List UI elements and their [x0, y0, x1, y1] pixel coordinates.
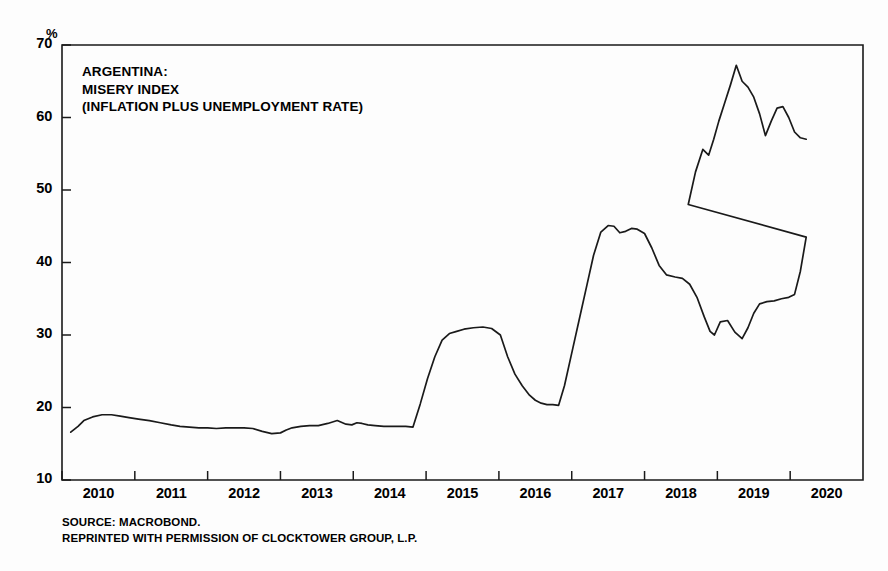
- y-tick-label: 30: [18, 325, 52, 341]
- data-series-group: [71, 65, 806, 433]
- x-tick-label: 2017: [572, 485, 644, 501]
- source-line: SOURCE: MACROBOND.: [62, 515, 417, 531]
- x-tick-label: 2014: [354, 485, 426, 501]
- permission-line: REPRINTED WITH PERMISSION OF CLOCKTOWER …: [62, 531, 417, 547]
- misery-index-chart: % ARGENTINA: MISERY INDEX (INFLATION PLU…: [0, 0, 888, 571]
- x-tick-label: 2010: [62, 485, 134, 501]
- x-tick-label: 2011: [135, 485, 207, 501]
- plot-frame: [62, 45, 863, 480]
- x-tick-label: 2018: [645, 485, 717, 501]
- x-tick-label: 2016: [499, 485, 571, 501]
- chart-page: % ARGENTINA: MISERY INDEX (INFLATION PLU…: [0, 0, 888, 571]
- y-tick-label: 20: [18, 398, 52, 414]
- y-tick-label: 40: [18, 253, 52, 269]
- plot-frame-border: [62, 45, 863, 480]
- y-tick-label: 70: [18, 35, 52, 51]
- y-tick-label: 10: [18, 470, 52, 486]
- misery-index-line: [71, 65, 806, 433]
- x-tick-label: 2013: [281, 485, 353, 501]
- x-tick-label: 2019: [718, 485, 790, 501]
- x-tick-label: 2020: [791, 485, 863, 501]
- source-note: SOURCE: MACROBOND. REPRINTED WITH PERMIS…: [62, 515, 417, 546]
- x-tick-label: 2012: [208, 485, 280, 501]
- x-axis-ticks: [62, 471, 790, 480]
- y-tick-label: 60: [18, 108, 52, 124]
- y-axis-ticks: [62, 45, 71, 480]
- y-tick-label: 50: [18, 180, 52, 196]
- x-tick-label: 2015: [427, 485, 499, 501]
